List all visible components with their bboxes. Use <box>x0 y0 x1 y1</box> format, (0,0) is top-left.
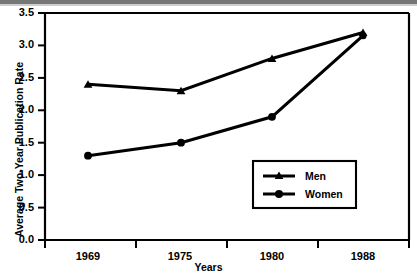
series-women <box>84 32 367 160</box>
legend-label-women: Women <box>305 188 343 200</box>
y-tick-label: 3.5 <box>4 6 34 18</box>
x-axis-ticks <box>45 240 409 248</box>
series-men <box>84 28 368 94</box>
y-axis-title: Average Two-Year Publication Rate <box>13 62 25 237</box>
chart-figure: 3.5 3.0 2.5 2.0 1.5 1.0 0.5 0.0 1969 197… <box>0 0 417 276</box>
legend-box <box>253 161 356 208</box>
y-tick-label: 3.0 <box>4 38 34 50</box>
x-axis-title: Years <box>0 261 417 273</box>
legend-label-men: Men <box>305 170 326 182</box>
line-chart-plot <box>0 0 417 276</box>
